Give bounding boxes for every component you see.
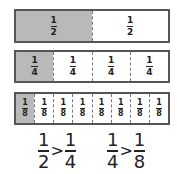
segment: 18: [111, 94, 130, 123]
numerator: 1: [70, 56, 76, 65]
denominator: 8: [22, 110, 28, 118]
numerator: 1: [146, 56, 152, 65]
fraction: 12: [127, 16, 133, 37]
fraction: 18: [41, 99, 47, 118]
denominator: 8: [80, 110, 86, 118]
denominator: 4: [146, 68, 152, 77]
segment: 18: [149, 94, 168, 123]
denominator: 8: [156, 110, 162, 118]
eighths-bar: 1818181818181818: [14, 92, 170, 125]
fraction: 12: [38, 131, 49, 171]
denominator: 8: [134, 153, 145, 171]
fraction: 14: [70, 56, 76, 77]
segment: 12: [92, 11, 169, 41]
denominator: 4: [31, 68, 37, 77]
shaded-segment: 18: [16, 94, 34, 123]
greater-than-sign: >: [119, 141, 132, 160]
numerator: 1: [99, 99, 105, 107]
numerator: 1: [107, 131, 118, 149]
segment: 18: [72, 94, 91, 123]
comparison-quarter-gt-eighth: 14>18: [107, 131, 145, 171]
denominator: 4: [65, 153, 76, 171]
numerator: 1: [31, 56, 37, 65]
segment: 18: [130, 94, 149, 123]
denominator: 2: [38, 153, 49, 171]
numerator: 1: [41, 99, 47, 107]
segment: 18: [92, 94, 111, 123]
fraction: 18: [156, 99, 162, 118]
shaded-segment: 12: [16, 11, 92, 41]
denominator: 4: [108, 68, 114, 77]
numerator: 1: [137, 99, 143, 107]
numerator: 1: [22, 99, 28, 107]
fraction: 14: [65, 131, 76, 171]
segment: 14: [130, 52, 168, 81]
numerator: 1: [65, 131, 76, 149]
numerator: 1: [134, 131, 145, 149]
denominator: 8: [118, 110, 124, 118]
numerator: 1: [118, 99, 124, 107]
segment: 18: [53, 94, 72, 123]
fraction: 18: [61, 99, 67, 118]
denominator: 8: [41, 110, 47, 118]
fraction: 14: [107, 131, 118, 171]
comparison-half-gt-quarter: 12>14: [38, 131, 76, 171]
denominator: 4: [70, 68, 76, 77]
denominator: 8: [61, 110, 67, 118]
greater-than-sign: >: [50, 141, 63, 160]
segment: 18: [34, 94, 53, 123]
numerator: 1: [38, 131, 49, 149]
fraction: 18: [137, 99, 143, 118]
fraction: 18: [118, 99, 124, 118]
fraction: 14: [108, 56, 114, 77]
fraction: 18: [99, 99, 105, 118]
fraction: 12: [51, 16, 57, 37]
numerator: 1: [80, 99, 86, 107]
numerator: 1: [127, 16, 133, 25]
fraction: 18: [80, 99, 86, 118]
segment: 14: [92, 52, 130, 81]
segment: 14: [53, 52, 91, 81]
denominator: 4: [107, 153, 118, 171]
halves-bar: 1212: [14, 9, 170, 43]
shaded-segment: 14: [16, 52, 53, 81]
fraction: 14: [146, 56, 152, 77]
quarters-bar: 14141414: [14, 50, 170, 83]
numerator: 1: [61, 99, 67, 107]
numerator: 1: [108, 56, 114, 65]
fraction: 18: [22, 99, 28, 118]
fraction: 14: [31, 56, 37, 77]
denominator: 2: [51, 28, 57, 37]
numerator: 1: [51, 16, 57, 25]
denominator: 8: [137, 110, 143, 118]
denominator: 2: [127, 28, 133, 37]
denominator: 8: [99, 110, 105, 118]
numerator: 1: [156, 99, 162, 107]
fraction: 18: [134, 131, 145, 171]
